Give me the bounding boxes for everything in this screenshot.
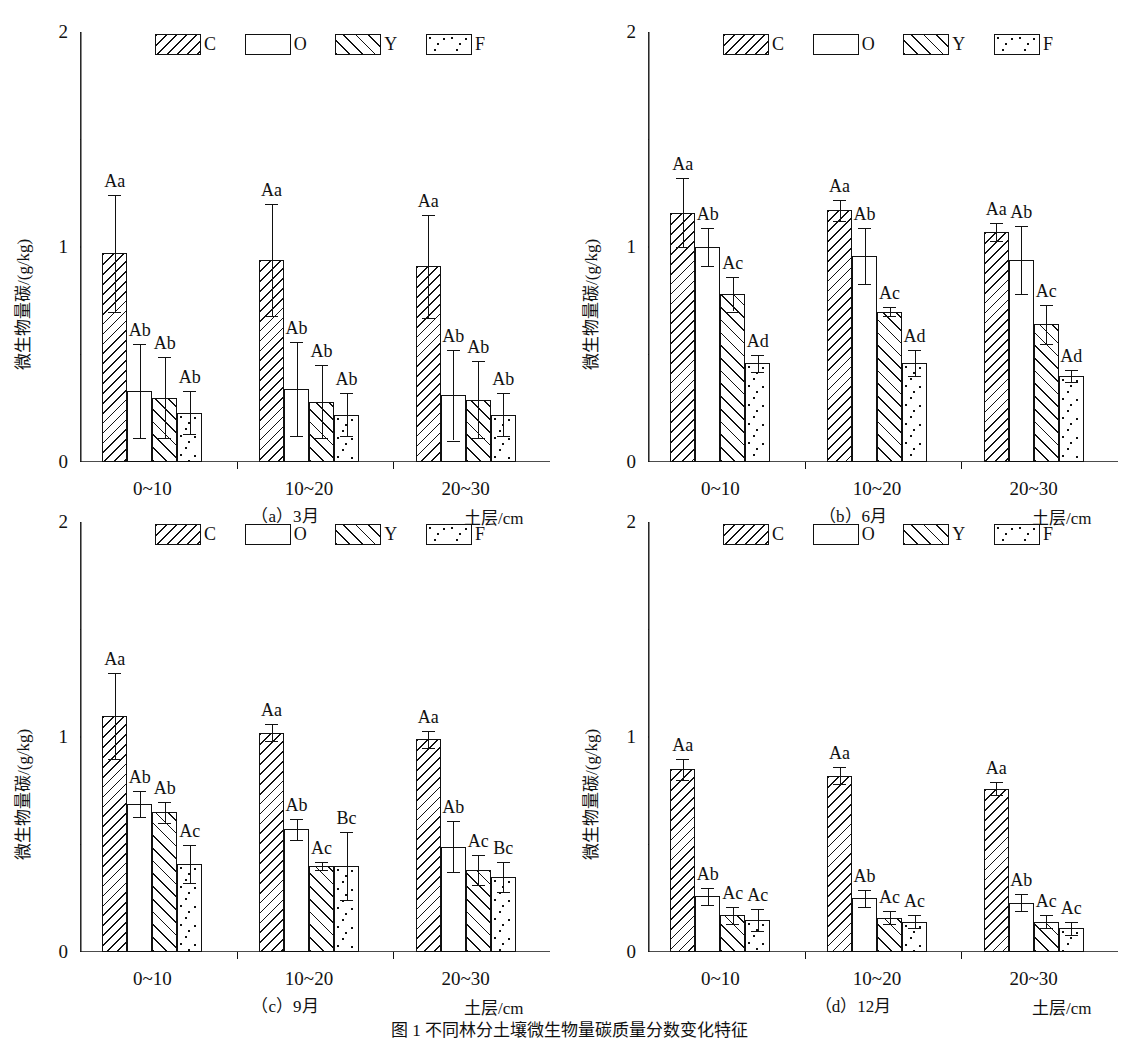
- error-bar-cap: [751, 931, 764, 932]
- significance-label: Ac: [167, 821, 213, 842]
- legend: COYF: [155, 524, 485, 545]
- legend-swatch-o-icon: [245, 34, 291, 55]
- x-tick-label: 10~20: [244, 478, 374, 500]
- x-tick-mark: [237, 462, 238, 469]
- x-tick-mark: [393, 462, 394, 469]
- error-bar-cap: [108, 312, 121, 313]
- error-bar-cap: [1040, 928, 1053, 929]
- chart-panel-a: 微生物量碳/(g/kg)012AaAbAbAb0~10AaAbAbAb10~20…: [5, 22, 565, 522]
- legend: COYF: [723, 524, 1053, 545]
- legend-label: F: [475, 34, 485, 55]
- error-bar-cap: [183, 883, 196, 884]
- error-bar: [865, 228, 866, 284]
- y-tick-label: 0: [606, 942, 636, 961]
- error-bar-cap: [858, 228, 871, 229]
- x-tick-mark: [961, 462, 962, 469]
- significance-label: Ab: [998, 870, 1044, 891]
- error-bar: [140, 344, 141, 439]
- error-bar-cap: [701, 905, 714, 906]
- significance-label: Aa: [249, 700, 295, 721]
- error-bar: [1021, 894, 1022, 911]
- error-bar: [996, 782, 997, 795]
- legend-label: Y: [384, 524, 397, 545]
- error-bar-cap: [315, 870, 328, 871]
- significance-label: Ac: [867, 283, 913, 304]
- significance-label: Ad: [892, 326, 938, 347]
- error-bar-cap: [751, 372, 764, 373]
- error-bar: [683, 759, 684, 781]
- error-bar-cap: [497, 393, 510, 394]
- bar-c-10-20-C: [259, 733, 284, 952]
- figure-container: 微生物量碳/(g/kg)012AaAbAbAb0~10AaAbAbAb10~20…: [0, 0, 1139, 1038]
- legend-item-f: F: [426, 34, 485, 55]
- y-tick-label: 0: [606, 452, 636, 471]
- bar-c-20-30-C: [416, 739, 441, 952]
- error-bar-cap: [497, 436, 510, 437]
- error-bar-cap: [422, 748, 435, 749]
- plot-area: 012AaAbAcAd0~10AaAbAcAd10~20AaAbAcAd20~3…: [648, 32, 1118, 462]
- significance-label: Ab: [274, 795, 320, 816]
- legend-swatch-o-icon: [245, 524, 291, 545]
- error-bar-cap: [422, 215, 435, 216]
- y-tick-label: 0: [38, 452, 68, 471]
- figure-caption: 图 1 不同林分土壤微生物量碳质量分数变化特征: [0, 1016, 1139, 1038]
- error-bar: [840, 200, 841, 222]
- error-bar-cap: [990, 223, 1003, 224]
- legend-swatch-y-icon: [335, 34, 381, 55]
- legend-swatch-c-icon: [723, 524, 769, 545]
- error-bar-cap: [497, 892, 510, 893]
- error-bar-cap: [183, 845, 196, 846]
- legend-label: Y: [952, 34, 965, 55]
- legend-item-o: O: [245, 524, 307, 545]
- error-bar-cap: [1015, 226, 1028, 227]
- bar-c-0-10-O: [127, 804, 152, 952]
- significance-label: Aa: [817, 743, 863, 764]
- legend-label: F: [1043, 524, 1053, 545]
- error-bar-cap: [265, 724, 278, 725]
- error-bar-cap: [676, 178, 689, 179]
- error-bar: [503, 862, 504, 892]
- significance-label: Ab: [685, 204, 731, 225]
- legend-label: C: [204, 34, 216, 55]
- y-axis-label: 微生物量碳/(g/kg): [577, 0, 599, 150]
- error-bar: [708, 228, 709, 267]
- error-bar-cap: [990, 782, 1003, 783]
- error-bar-cap: [183, 434, 196, 435]
- significance-label: Ab: [842, 204, 888, 225]
- error-bar-cap: [726, 924, 739, 925]
- error-bar-cap: [108, 673, 121, 674]
- error-bar-cap: [883, 316, 896, 317]
- error-bar-cap: [1065, 382, 1078, 383]
- error-bar: [1046, 305, 1047, 344]
- error-bar: [758, 909, 759, 931]
- legend-label: O: [862, 34, 875, 55]
- y-tick-label: 2: [606, 512, 636, 531]
- legend-swatch-y-icon: [903, 524, 949, 545]
- legend-label: F: [475, 524, 485, 545]
- error-bar-cap: [908, 376, 921, 377]
- bar-b-0-10-C: [670, 213, 695, 462]
- error-bar: [733, 907, 734, 924]
- legend-label: Y: [384, 34, 397, 55]
- significance-label: Ac: [892, 891, 938, 912]
- error-bar-cap: [265, 204, 278, 205]
- significance-label: Aa: [405, 707, 451, 728]
- error-bar: [190, 391, 191, 434]
- significance-label: Ab: [142, 333, 188, 354]
- significance-label: Aa: [660, 735, 706, 756]
- error-bar-cap: [422, 731, 435, 732]
- bar-b-20-30-C: [984, 232, 1009, 462]
- legend-swatch-f-icon: [994, 524, 1040, 545]
- significance-label: Bc: [324, 808, 370, 829]
- error-bar-cap: [1065, 922, 1078, 923]
- chart-panel-c: 微生物量碳/(g/kg)012AaAbAbAc0~10AaAbAcBc10~20…: [5, 512, 565, 1012]
- error-bar-cap: [340, 832, 353, 833]
- error-bar-cap: [1065, 370, 1078, 371]
- error-bar-cap: [751, 355, 764, 356]
- error-bar-cap: [833, 767, 846, 768]
- significance-label: Ac: [735, 885, 781, 906]
- legend-swatch-c-icon: [723, 34, 769, 55]
- significance-label: Aa: [660, 154, 706, 175]
- error-bar-cap: [315, 438, 328, 439]
- bar-b-10-20-C: [827, 210, 852, 462]
